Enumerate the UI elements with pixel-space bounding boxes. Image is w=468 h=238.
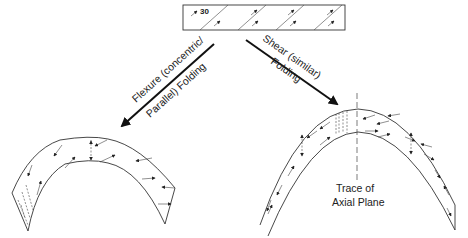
shear-arrow: Shear (similar) Folding — [246, 32, 337, 104]
flexure-fold — [12, 137, 175, 231]
folding-diagram: 30 Flexure (concentric/ Parallel) Foldin… — [0, 0, 468, 238]
flexure-arrow: Flexure (concentric/ Parallel) Folding — [122, 34, 214, 126]
original-bed: 30 — [183, 5, 345, 30]
axial-label-line2: Axial Plane — [332, 196, 385, 208]
axial-label-line1: Trace of — [336, 182, 374, 194]
shear-fold: Trace of Axial Plane — [260, 93, 455, 236]
angle-label: 30 — [200, 7, 209, 16]
